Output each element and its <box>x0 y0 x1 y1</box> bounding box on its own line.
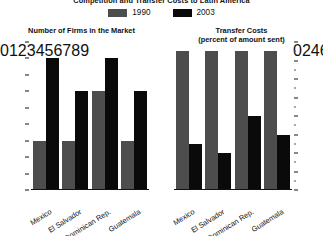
y-tick-label: 2 <box>302 42 311 59</box>
plot-area-left: MexicoEl SalvadorDominican Rep.Guatemala <box>31 42 149 190</box>
bar-group <box>233 42 263 190</box>
legend: 1990 2003 <box>0 9 323 17</box>
y-tick-mark <box>25 173 29 174</box>
category-labels-left: MexicoEl SalvadorDominican Rep.Guatemala <box>31 208 149 236</box>
y-tick-mark <box>25 58 29 59</box>
y-tick-label: 0 <box>0 42 9 59</box>
y-tick-minor <box>294 125 296 126</box>
y-tick-minor <box>294 69 296 70</box>
y-tick-mark <box>294 97 298 98</box>
plot-area-right: MexicoEl SalvadorDominican Rep.Guatemala <box>174 42 292 190</box>
legend-label-1990: 1990 <box>132 9 150 17</box>
figure: Competition and Transfer Costs to Latin … <box>0 0 323 236</box>
y-tick-minor <box>294 162 296 163</box>
legend-item-1990: 1990 <box>108 9 150 17</box>
bar-2003 <box>75 91 88 190</box>
bar-groups-left <box>31 42 149 190</box>
y-tick-minor <box>294 180 296 181</box>
bar-2003 <box>248 116 261 190</box>
panel-transfer-costs: Transfer Costs (percent of amount sent) … <box>160 26 323 236</box>
bar-2003 <box>218 153 231 190</box>
y-tick-mark <box>25 74 29 75</box>
bar-group <box>90 42 120 190</box>
y-tick-label: 4 <box>311 42 320 59</box>
y-tick-mark <box>25 190 29 191</box>
bar-group <box>263 42 293 190</box>
y-tick-mark <box>294 42 298 43</box>
y-tick-mark <box>294 190 298 191</box>
bar-group <box>174 42 204 190</box>
legend-item-2003: 2003 <box>173 9 215 17</box>
y-tick-mark <box>294 153 298 154</box>
y-tick-minor <box>294 143 296 144</box>
panel-left-title: Number of Firms in the Market <box>0 26 163 35</box>
bar-group <box>31 42 61 190</box>
y-tick-label: 2 <box>18 42 27 59</box>
bar-group <box>120 42 150 190</box>
x-axis-line-left <box>31 189 149 190</box>
bar-groups-right <box>174 42 292 190</box>
legend-swatch-1990 <box>108 9 127 17</box>
bar-2003 <box>189 144 202 190</box>
y-tick-mark <box>25 107 29 108</box>
bar-1990 <box>121 141 134 190</box>
category-label: Guatemala <box>107 208 142 233</box>
y-tick-mark <box>294 134 298 135</box>
bar-group <box>61 42 91 190</box>
y-tick-mark <box>25 140 29 141</box>
y-tick-minor <box>294 88 296 89</box>
bar-1990 <box>176 51 189 190</box>
y-tick-minor <box>294 51 296 52</box>
y-axis-right: 0246810121416 <box>293 42 323 190</box>
y-tick-mark <box>25 91 29 92</box>
y-tick-mark <box>294 116 298 117</box>
legend-swatch-2003 <box>173 9 192 17</box>
category-labels-right: MexicoEl SalvadorDominican Rep.Guatemala <box>174 208 292 236</box>
panel-number-of-firms: Number of Firms in the Market 0123456789… <box>0 26 163 236</box>
bar-1990 <box>205 51 218 190</box>
y-tick-mark <box>294 171 298 172</box>
bar-1990 <box>235 51 248 190</box>
y-tick-label: 1 <box>9 42 18 59</box>
bar-1990 <box>62 141 75 190</box>
y-tick-minor <box>294 106 296 107</box>
y-axis-left: 0123456789 <box>0 42 30 190</box>
bar-1990 <box>33 141 46 190</box>
y-tick-mark <box>25 42 29 43</box>
bar-1990 <box>264 51 277 190</box>
legend-label-2003: 2003 <box>197 9 215 17</box>
y-tick-mark <box>294 60 298 61</box>
y-tick-mark <box>25 124 29 125</box>
bar-2003 <box>134 91 147 190</box>
bar-2003 <box>105 58 118 190</box>
y-tick-mark <box>25 157 29 158</box>
bar-1990 <box>92 91 105 190</box>
figure-suptitle: Competition and Transfer Costs to Latin … <box>0 0 323 5</box>
bar-2003 <box>277 135 290 191</box>
x-axis-line-right <box>174 189 292 190</box>
bar-2003 <box>46 58 59 190</box>
bar-group <box>204 42 234 190</box>
panel-right-title: Transfer Costs <box>160 26 323 35</box>
category-label: Guatemala <box>250 208 285 233</box>
y-tick-mark <box>294 79 298 80</box>
